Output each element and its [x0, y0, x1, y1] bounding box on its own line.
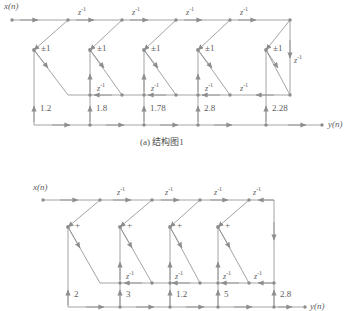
diagram-a-top-delay-2: z-1 [132, 6, 140, 17]
diagram-a-coefficient-2: 1.8 [96, 104, 107, 113]
diagram-a-coefficient-1: 1.2 [40, 104, 51, 113]
diagram-a-stage-symbol-2: ±1 [97, 44, 106, 53]
diagram-b-mid-delay-2: z-1 [175, 270, 183, 281]
diagram-a-mid-delay-4: z-1 [240, 82, 248, 93]
diagram-a-stage-symbol-4: ±1 [205, 44, 214, 53]
diagram-a-right-delay: z-1 [294, 54, 302, 65]
diagram-a-top-delay-4: z-1 [240, 6, 248, 17]
signal-flow-graph [0, 0, 356, 311]
diagram-b-right-delay: z-1 [254, 270, 262, 281]
diagram-b-mid-delay-1: z-1 [126, 270, 134, 281]
figure-container: x(n) y(n) z-1 z-1 z-1 z-1 ±1 ±1 ±1 ±1 ±1… [0, 0, 356, 311]
diagram-a-mid-delay-2: z-1 [151, 82, 159, 93]
diagram-a-coefficient-3: 1.78 [150, 104, 166, 113]
diagram-a-stage-symbol-3: ±1 [151, 44, 160, 53]
diagram-b-coefficient-3: 1.2 [176, 290, 187, 299]
diagram-b-mid-delay-3: z-1 [223, 270, 231, 281]
diagram-b-stage-symbol-4: + [225, 221, 230, 230]
diagram-b-coefficient-5: 2.8 [280, 290, 291, 299]
diagram-b-input-label: x(n) [33, 183, 48, 192]
diagram-a-stage-symbol-5: ±1 [273, 44, 282, 53]
diagram-a-coefficient-5: 2.28 [272, 104, 288, 113]
diagram-a-input-label: x(n) [4, 2, 19, 11]
diagram-b-output-label: y(n) [310, 302, 325, 311]
diagram-b-top-delay-2: z-1 [165, 186, 173, 197]
diagram-a-mid-delay-1: z-1 [97, 82, 105, 93]
diagram-b-coefficient-1: 2 [74, 290, 79, 299]
diagram-b-coefficient-4: 5 [224, 290, 229, 299]
diagram-b-stage-symbol-3: + [177, 221, 182, 230]
diagram-b-top-delay-4: z-1 [253, 186, 261, 197]
diagram-b-top-delay-3: z-1 [214, 186, 222, 197]
diagram-b-stage-symbol-1: + [75, 221, 80, 230]
diagram-a-output-label: y(n) [328, 120, 343, 129]
diagram-a-coefficient-4: 2.8 [204, 104, 215, 113]
diagram-a-top-delay-1: z-1 [78, 6, 86, 17]
diagram-a-top-delay-3: z-1 [186, 6, 194, 17]
diagram-b-top-delay-1: z-1 [117, 186, 125, 197]
diagram-b-coefficient-2: 3 [126, 290, 131, 299]
diagram-a-mid-delay-3: z-1 [205, 82, 213, 93]
diagram-b-stage-symbol-2: + [127, 221, 132, 230]
diagram-a-caption: (a) 结构图1 [140, 138, 184, 147]
diagram-a-stage-symbol-1: ±1 [41, 44, 50, 53]
